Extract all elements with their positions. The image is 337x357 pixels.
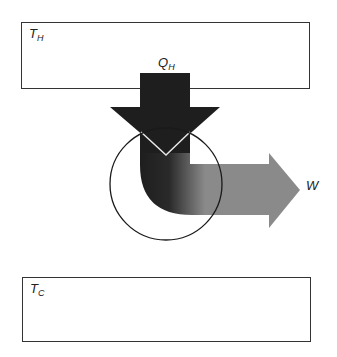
heat-arrowhead [110, 107, 220, 155]
heat-engine-diagram [0, 0, 337, 357]
heat-in-label: QH [158, 55, 175, 72]
work-out-label: W [306, 178, 318, 193]
work-arrow [200, 153, 300, 228]
energy-flow-bend [140, 150, 205, 215]
